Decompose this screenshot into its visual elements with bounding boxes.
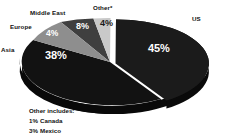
footnote-block: Other includes: 1%Canada 3%Mexico (29, 106, 74, 137)
footnote-name: Canada (40, 117, 62, 124)
pie-label-us: US (192, 16, 201, 22)
footnote-row: 1%Canada (29, 116, 74, 126)
pie-value-europe: 4% (46, 29, 58, 38)
pie-value-us: 45% (148, 43, 170, 54)
chart-screenshot: US Other* Middle East Europe Asia 45% 38… (0, 0, 225, 139)
pie-label-middle-east: Middle East (30, 10, 65, 16)
pie-label-other: Other* (93, 5, 113, 11)
pie-value-other: 4% (100, 19, 113, 28)
pie-value-asia: 38% (45, 50, 67, 61)
pie-label-asia: Asia (1, 47, 14, 53)
footnote-heading: Other includes: (29, 106, 74, 116)
footnote-percent: 3% (29, 126, 40, 136)
footnote-name: Mexico (40, 127, 61, 134)
footnote-percent: 1% (29, 116, 40, 126)
pie-label-europe: Europe (10, 24, 32, 30)
footnote-row: 3%Mexico (29, 126, 74, 136)
pie-value-middle-east: 8% (76, 22, 89, 31)
